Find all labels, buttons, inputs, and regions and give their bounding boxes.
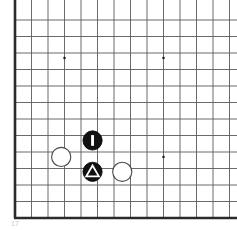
white-stone-right[interactable]: [113, 162, 132, 181]
star-point-upper-left: [63, 57, 65, 59]
go-board[interactable]: [0, 0, 237, 230]
star-point-upper-right: [162, 57, 164, 59]
white-stone-circle: [52, 147, 71, 166]
star-point-lower-right: [162, 156, 164, 158]
black-stone-marked-bar[interactable]: [83, 131, 102, 150]
board-background: [0, 0, 237, 230]
go-diagram-container: 17: [0, 0, 237, 230]
diagram-caption: 17: [11, 220, 19, 228]
black-stone-marked-triangle[interactable]: [83, 162, 102, 181]
white-stone-circle: [113, 162, 132, 181]
white-stone-left[interactable]: [52, 147, 71, 166]
stone-mark-bar-icon: [91, 135, 94, 146]
